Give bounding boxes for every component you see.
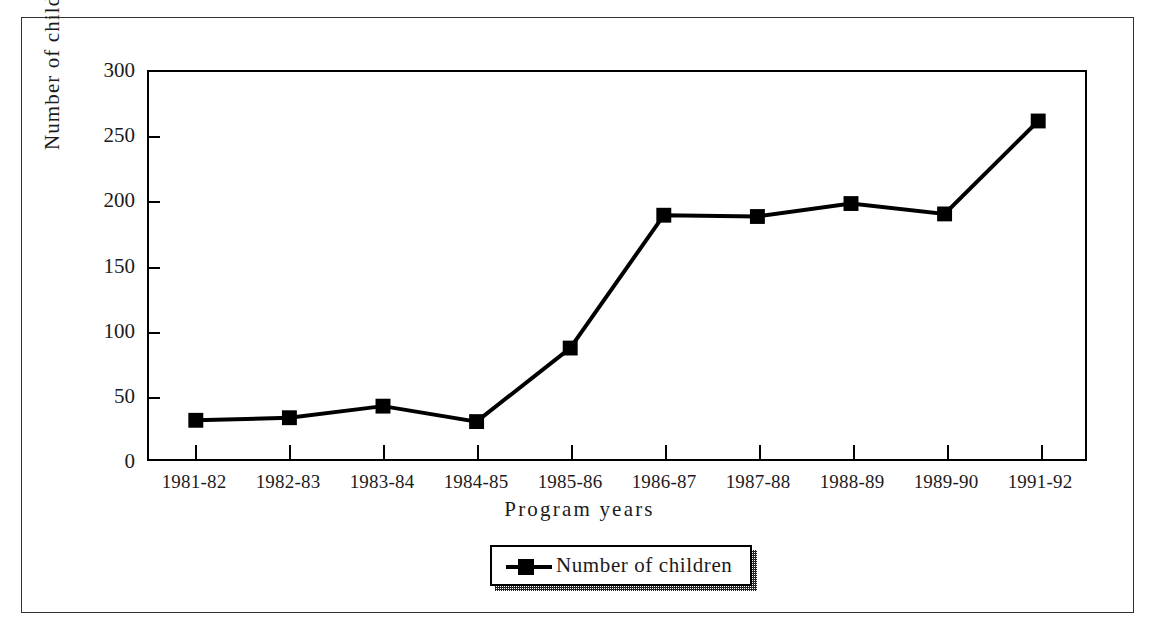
y-axis-title: Number of children (40, 0, 65, 150)
x-axis-title: Program years (0, 497, 1159, 522)
y-axis-tick-label: 300 (75, 60, 135, 81)
data-point-marker (844, 196, 859, 211)
legend-key-square-icon (506, 556, 552, 576)
chart-figure: Number of children 050100150200250300 19… (0, 0, 1159, 633)
data-point-marker (937, 207, 952, 222)
data-point-marker (563, 341, 578, 356)
data-point-marker (1031, 114, 1046, 129)
legend-box: Number of children (490, 545, 752, 586)
chart-legend: Number of children (490, 545, 752, 586)
y-axis-tick-label: 0 (75, 451, 135, 472)
data-point-marker (282, 410, 297, 425)
legend-key-marker (518, 559, 534, 575)
y-axis-tick-label: 50 (75, 386, 135, 407)
y-axis-tick-label: 250 (75, 125, 135, 146)
data-point-marker (376, 399, 391, 414)
y-axis-tick-label: 200 (75, 190, 135, 211)
y-axis-tick-label: 150 (75, 256, 135, 277)
y-axis-tick-label: 100 (75, 321, 135, 342)
data-point-marker (469, 414, 484, 429)
series-polyline (196, 121, 1038, 422)
legend-entry-label: Number of children (556, 553, 732, 578)
data-point-marker (656, 208, 671, 223)
x-axis-tick-label: 1991-92 (985, 472, 1095, 492)
data-point-marker (750, 209, 765, 224)
data-point-marker (188, 413, 203, 428)
series-markers (188, 114, 1045, 429)
plot-area (147, 70, 1087, 461)
data-series-line (149, 72, 1085, 459)
